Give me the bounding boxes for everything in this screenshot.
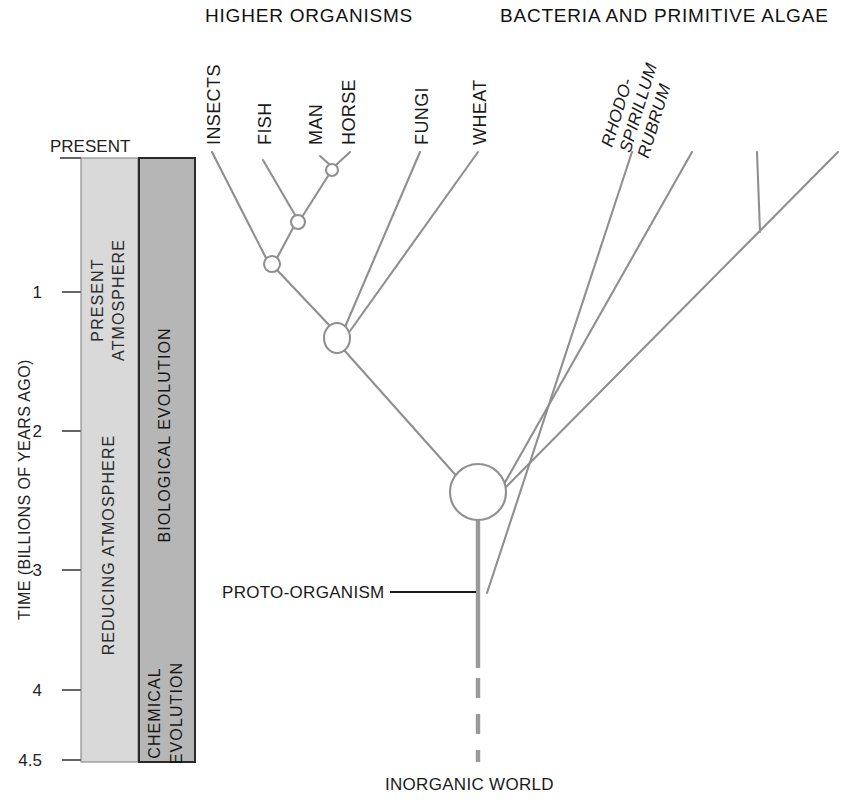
tip-label-horse: HORSE	[339, 79, 359, 145]
node-common-ancestor	[450, 464, 506, 520]
header-higher-organisms: HIGHER ORGANISMS	[205, 5, 413, 26]
band-biological-evolution: BIOLOGICAL EVOLUTION	[156, 327, 173, 542]
tip-label-rhodospirillum-rubrum: RHODO- SPIRILLUM RUBRUM	[598, 55, 680, 161]
tip-label-fungi: FUNGI	[412, 87, 432, 145]
tree-branches	[212, 152, 838, 593]
header-bacteria-algae: BACTERIA AND PRIMITIVE ALGAE	[500, 5, 829, 26]
y-axis-title: TIME (BILLIONS OF YEARS AGO)	[16, 359, 33, 620]
branch-horse	[336, 152, 350, 165]
branch-rhodospirillum-rubrum	[487, 152, 632, 593]
band-reducing-atmosphere: REDUCING ATMOSPHERE	[100, 435, 117, 656]
node-man-horse	[326, 164, 338, 176]
figure-canvas: HIGHER ORGANISMS BACTERIA AND PRIMITIVE …	[0, 0, 858, 810]
present-label: PRESENT	[50, 137, 130, 156]
node-insects-vertebrates	[264, 256, 280, 272]
evolution-tree-diagram: HIGHER ORGANISMS BACTERIA AND PRIMITIVE …	[0, 0, 858, 810]
node-fish-mammal	[291, 215, 305, 229]
tip-label-man: MAN	[306, 104, 326, 145]
tip-labels: INSECTS FISH MAN HORSE FUNGI WHEAT RHODO…	[204, 55, 679, 161]
tip-label-insects: INSECTS	[204, 64, 224, 145]
branch-mammal-stem	[302, 176, 328, 217]
proto-organism-label: PROTO-ORGANISM	[222, 583, 385, 602]
band-present-atmosphere-line2: ATMOSPHERE	[110, 239, 127, 361]
branch-fungi	[345, 152, 420, 327]
branch-fish	[263, 160, 295, 215]
tick-label-3: 3	[33, 561, 42, 580]
branch-animal-stem	[277, 270, 330, 326]
branch-man	[320, 156, 329, 164]
tick-label-1: 1	[33, 283, 42, 302]
inorganic-world-label: INORGANIC WORLD	[385, 775, 554, 794]
branch-bacteria-3	[757, 152, 760, 232]
band-chemical-evolution-line2: EVOLUTION	[168, 662, 185, 764]
tick-label-4: 4	[33, 681, 42, 700]
branch-bacteria-4	[497, 152, 838, 496]
band-chemical-evolution-line1: CHEMICAL	[146, 667, 163, 758]
branch-vertebrate-stem	[277, 228, 293, 258]
branch-bacteria-2	[495, 152, 692, 500]
branch-wheat	[350, 152, 478, 331]
band-present-atmosphere-line1: PRESENT	[89, 258, 106, 341]
annotation-proto-organism: PROTO-ORGANISM	[222, 583, 476, 602]
branch-eukaryote-stem	[344, 350, 460, 480]
node-eukaryote-radiation	[324, 323, 350, 353]
tip-label-wheat: WHEAT	[470, 79, 490, 145]
tick-label-4-5: 4.5	[18, 751, 42, 770]
branch-insects	[212, 152, 266, 258]
tree-nodes	[264, 164, 506, 520]
tick-label-2: 2	[33, 422, 42, 441]
tip-label-fish: FISH	[255, 102, 275, 145]
band-columns: PRESENT ATMOSPHERE REDUCING ATMOSPHERE B…	[81, 158, 195, 764]
